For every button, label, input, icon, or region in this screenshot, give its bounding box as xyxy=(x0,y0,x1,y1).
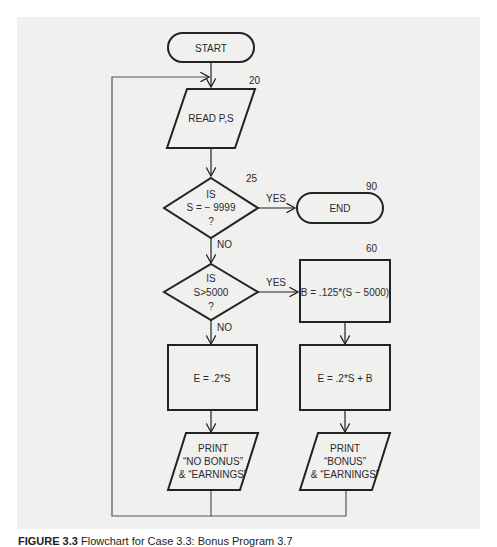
line-number-20: 20 xyxy=(249,75,261,86)
end-label: END xyxy=(329,203,350,214)
caption-label: FIGURE 3.3 xyxy=(18,535,78,547)
print-bonus-line1: PRINT xyxy=(330,443,360,454)
end-terminal: 90 END xyxy=(297,181,383,223)
decision-bonus-line3: ? xyxy=(208,301,214,312)
earn-no-bonus-label: E = .2*S xyxy=(194,373,231,384)
caption-text: Flowchart for Case 3.3: Bonus Program 3.… xyxy=(81,535,293,547)
start-terminal: START xyxy=(168,33,254,62)
decision-sentinel-line3: ? xyxy=(208,216,214,227)
line-number-25: 25 xyxy=(246,173,258,184)
bonus-calc-process: 60 B = .125*(S − 5000) xyxy=(300,243,390,322)
print-no-bonus-line2: “NO BONUS” xyxy=(183,456,243,467)
decision-bonus-line1: IS xyxy=(206,273,216,284)
print-bonus-line2: “BONUS” xyxy=(324,456,366,467)
print-no-bonus-line3: & “EARNINGS” xyxy=(179,469,247,480)
print-no-bonus-line1: PRINT xyxy=(198,443,228,454)
start-label: START xyxy=(195,43,227,54)
decision-bonus-line2: S>5000 xyxy=(194,287,229,298)
bonus-calc-label: B = .125*(S − 5000) xyxy=(301,287,389,298)
decision-sentinel-line1: IS xyxy=(206,189,216,200)
print-bonus-output: PRINT “BONUS” & “EARNINGS” xyxy=(300,433,390,490)
print-no-bonus-output: PRINT “NO BONUS” & “EARNINGS” xyxy=(168,433,258,490)
decision-bonus: IS S>5000 ? xyxy=(164,264,258,320)
edge-label-bonus-yes: YES xyxy=(266,277,286,288)
edge-label-bonus-no: NO xyxy=(217,322,232,333)
print-bonus-line3: & “EARNINGS” xyxy=(311,469,379,480)
read-input-node: 20 READ P,S xyxy=(167,75,261,148)
earn-no-bonus-process: E = .2*S xyxy=(168,345,257,410)
figure-caption: FIGURE 3.3 Flowchart for Case 3.3: Bonus… xyxy=(18,535,293,547)
decision-sentinel: 25 IS S = − 9999 ? xyxy=(164,173,258,238)
earn-with-bonus-label: E = .2*S + B xyxy=(317,373,372,384)
line-number-90: 90 xyxy=(366,181,378,192)
edge-label-sentinel-no: NO xyxy=(217,239,232,250)
read-label: READ P,S xyxy=(188,113,234,124)
edge-label-sentinel-yes: YES xyxy=(266,193,286,204)
line-number-60: 60 xyxy=(366,243,378,254)
decision-sentinel-line2: S = − 9999 xyxy=(187,202,236,213)
earn-with-bonus-process: E = .2*S + B xyxy=(300,345,390,410)
